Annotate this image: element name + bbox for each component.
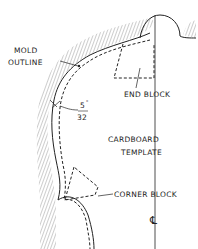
mold-outline-label-line2: OUTLINE — [8, 58, 43, 67]
mold-outline-label-line1: MOLD — [14, 46, 38, 55]
end-block-label: END BLOCK — [124, 90, 171, 99]
template-dashed-outline — [59, 40, 150, 249]
gap-denominator: 32 — [77, 113, 87, 122]
corner-block-outline — [65, 167, 98, 200]
mold-template-diagram: MOLD OUTLINE 5 " 32 END BLOCK CARDBOARD … — [0, 0, 198, 249]
end-block-outline — [114, 44, 154, 78]
gap-unit: " — [86, 99, 89, 105]
cardboard-template-label-line1: CARDBOARD — [108, 135, 159, 144]
corner-block-label: CORNER BLOCK — [114, 190, 178, 199]
cardboard-template-label-line2: TEMPLATE — [120, 148, 162, 157]
centerline-symbol: ℄ — [149, 214, 157, 227]
mold-hatching-right — [183, 20, 196, 38]
gap-numerator: 5 — [80, 101, 85, 110]
corner-block-leader — [98, 194, 113, 196]
